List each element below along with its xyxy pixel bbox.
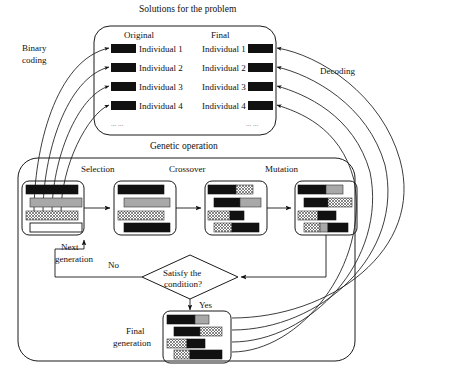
column-header-final: Final <box>211 30 230 40</box>
selection-rows <box>118 185 170 232</box>
stage-label-selection: Selection <box>81 164 115 174</box>
label-yes: Yes <box>199 300 212 310</box>
final-blocks-group <box>248 44 273 110</box>
final-generation-rows <box>167 315 222 359</box>
final-individual-2: Individual 2 <box>202 63 246 73</box>
label-decoding: Decoding <box>320 66 355 76</box>
crossover-rows <box>208 185 261 232</box>
label-final-generation-line2: generation <box>113 338 151 348</box>
label-binary-coding-line1: Binary <box>22 43 47 53</box>
decision-text-line2: condition? <box>164 279 202 289</box>
final-individual-4: Individual 4 <box>202 101 246 111</box>
stage-label-mutation: Mutation <box>265 164 298 174</box>
final-individual-3: Individual 3 <box>202 82 246 92</box>
ga-flow-diagram: Solutions for the problem Genetic operat… <box>0 0 453 379</box>
ellipsis-right: ... ... <box>246 119 258 129</box>
label-next-generation-line2: generation <box>55 254 93 264</box>
decision-text-line1: Satisfy the <box>163 268 201 278</box>
ellipsis-left: ... ... <box>111 119 123 129</box>
label-final-generation-line1: Final <box>126 326 145 336</box>
original-individual-4: Individual 4 <box>139 101 183 111</box>
column-header-original: Original <box>124 30 154 40</box>
original-individual-2: Individual 2 <box>139 63 183 73</box>
label-next-generation-line1: Next <box>61 242 79 252</box>
title-genetic-operation: Genetic operation <box>150 141 218 151</box>
diagram-canvas <box>0 0 453 379</box>
title-solutions: Solutions for the problem <box>139 4 236 14</box>
mutation-rows <box>298 185 352 232</box>
original-individual-3: Individual 3 <box>139 82 183 92</box>
stage-label-crossover: Crossover <box>169 164 206 174</box>
label-binary-coding-line2: coding <box>22 55 47 65</box>
final-individual-1: Individual 1 <box>202 44 246 54</box>
original-individual-1: Individual 1 <box>139 44 183 54</box>
mutation-to-decision <box>241 235 326 277</box>
label-no: No <box>108 260 119 270</box>
original-blocks-group <box>111 44 136 110</box>
